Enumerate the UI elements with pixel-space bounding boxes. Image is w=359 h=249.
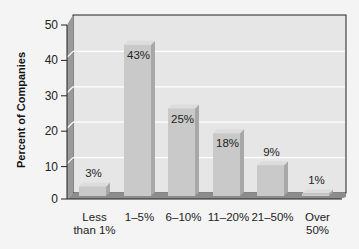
y-tick-label: 20 bbox=[45, 124, 59, 138]
bar: 18% bbox=[213, 129, 244, 196]
bar-chart: 3%43%25%18%9%1% 01020304050 Lessthan 1%1… bbox=[0, 0, 359, 249]
x-category-label: 1–5% bbox=[125, 211, 154, 223]
value-label: 25% bbox=[171, 113, 194, 125]
x-category-label: 21–50% bbox=[251, 211, 293, 223]
y-tick-label: 10 bbox=[45, 160, 59, 174]
bar: 43% bbox=[124, 41, 155, 196]
value-label: 3% bbox=[85, 167, 102, 179]
x-axis-labels: Lessthan 1%1–5%6–10%11–20%21–50%Over50% bbox=[73, 211, 330, 236]
y-tick-label: 0 bbox=[51, 192, 58, 206]
x-category-label: 6–10% bbox=[166, 211, 202, 223]
x-category-label: Lessthan 1% bbox=[73, 211, 115, 236]
value-label: 18% bbox=[216, 137, 239, 149]
value-label: 43% bbox=[127, 49, 150, 61]
y-axis-title: Percent of Companies bbox=[15, 52, 27, 168]
x-category-label: 11–20% bbox=[208, 211, 249, 223]
value-label: 9% bbox=[263, 146, 280, 158]
plot-area bbox=[67, 15, 346, 199]
x-category-label: Over50% bbox=[305, 211, 330, 236]
y-axis: 01020304050 bbox=[45, 18, 67, 206]
y-tick-label: 30 bbox=[45, 89, 59, 103]
value-label: 1% bbox=[308, 174, 325, 186]
y-tick-label: 40 bbox=[45, 53, 59, 67]
bar: 25% bbox=[168, 105, 199, 197]
y-tick-label: 50 bbox=[45, 18, 59, 32]
